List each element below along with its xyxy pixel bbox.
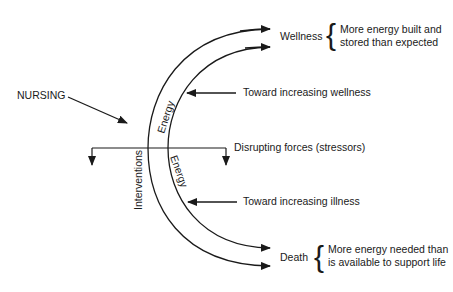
- nursing-arrow: [68, 97, 127, 123]
- inner-arc-top-arrow: [245, 47, 270, 48]
- wellness-description-line1: More energy built and: [340, 23, 442, 35]
- wellness-brace: {: [326, 18, 336, 51]
- nursing-label: NURSING: [17, 89, 65, 101]
- interventions-label: Interventions: [132, 150, 144, 210]
- wellness-description-line2: stored than expected: [340, 36, 438, 48]
- diagram-svg: NURSING Interventions Energy Energy Well…: [0, 0, 453, 292]
- outer-arc-top-arrow: [240, 29, 270, 31]
- wellness-label: Wellness: [280, 30, 322, 42]
- death-label: Death: [280, 251, 308, 263]
- energy-diagram: NURSING Interventions Energy Energy Well…: [0, 0, 453, 292]
- energy-lower-label: Energy: [168, 154, 191, 190]
- disrupting-forces-label: Disrupting forces (stressors): [234, 141, 365, 153]
- death-description-line1: More energy needed than: [328, 243, 448, 255]
- death-description-line2: is available to support life: [328, 256, 446, 268]
- toward-illness-label: Toward increasing illness: [243, 195, 360, 207]
- death-brace: {: [314, 240, 324, 273]
- toward-wellness-label: Toward increasing wellness: [243, 86, 371, 98]
